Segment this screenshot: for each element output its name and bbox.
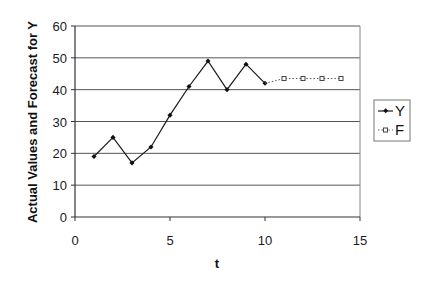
legend-label-f: F	[395, 121, 404, 138]
series-line-y	[94, 61, 265, 163]
x-axis-ticks: 051015	[71, 217, 367, 248]
legend: Y F	[374, 100, 410, 141]
x-tick-label: 10	[258, 233, 272, 248]
legend-label-y: Y	[395, 102, 405, 119]
y-tick-label: 10	[53, 178, 67, 193]
y-tick-label: 0	[60, 210, 67, 225]
legend-marker-square-icon	[384, 128, 388, 132]
y-tick-label: 30	[53, 115, 67, 130]
y-axis-ticks: 0102030405060	[53, 19, 75, 225]
x-tick-label: 15	[353, 233, 367, 248]
y-tick-label: 60	[53, 19, 67, 34]
y-tick-label: 40	[53, 83, 67, 98]
x-tick-label: 0	[71, 233, 78, 248]
series-group	[91, 58, 343, 165]
data-point-square-icon	[301, 77, 305, 81]
line-chart: 0102030405060 051015 t Actual Values and…	[0, 0, 428, 285]
y-tick-label: 50	[53, 51, 67, 66]
data-point-square-icon	[282, 77, 286, 81]
gridlines	[75, 26, 360, 185]
x-axis-title: t	[215, 256, 220, 271]
y-tick-label: 20	[53, 146, 67, 161]
y-axis-title: Actual Values and Forecast for Y	[25, 21, 40, 223]
x-tick-label: 5	[166, 233, 173, 248]
data-point-square-icon	[339, 77, 343, 81]
data-point-square-icon	[320, 77, 324, 81]
